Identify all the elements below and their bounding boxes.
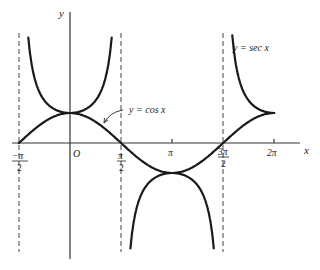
tick-label-2pi: 2π: [267, 148, 277, 158]
tick-label-neg-pi-over-2: −π 2: [12, 151, 28, 173]
sec-curve-branch-2: [130, 173, 213, 248]
y-axis-label: y: [58, 7, 64, 19]
cos-curve-label: y = cos x: [128, 104, 166, 115]
svg-text:2: 2: [119, 163, 124, 173]
svg-text:−π: −π: [12, 151, 23, 161]
svg-text:2: 2: [17, 163, 22, 173]
curves: [19, 35, 274, 248]
svg-text:2: 2: [221, 159, 226, 169]
graph-canvas: y x O y = cos x y = sec x −π 2 π 2 π 3π …: [0, 0, 320, 270]
tick-label-pi: π: [168, 148, 173, 158]
x-axis-label: x: [303, 144, 309, 156]
sec-curve-label: y = sec x: [232, 42, 269, 53]
svg-text:3π: 3π: [217, 147, 228, 157]
svg-text:π: π: [118, 151, 123, 161]
origin-label: O: [73, 148, 80, 159]
